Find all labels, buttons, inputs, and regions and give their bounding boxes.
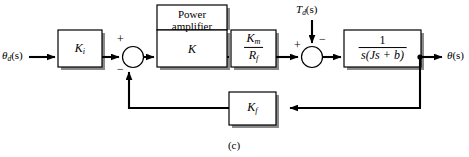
plant-numerator: 1 (358, 34, 407, 47)
input-argument: (s) (11, 49, 23, 61)
feedback-gain-subscript: f (255, 106, 257, 115)
controller-gain-subscript: i (83, 47, 85, 56)
plant-denominator: s(Js + b) (358, 47, 407, 62)
feedback-gain-symbol: K (247, 100, 255, 114)
diagram-vector-layer (0, 0, 469, 157)
output-signal-label: θ(s) (447, 50, 464, 61)
motor-constant-label: Km Rf (244, 32, 264, 64)
plant-fraction: 1 s(Js + b) (358, 34, 407, 62)
power-amplifier-caption: Power amplifier (172, 8, 212, 33)
feedback-label: Kf (247, 101, 257, 115)
power-amplifier-caption-line1: Power (172, 8, 212, 20)
plant-label: 1 s(Js + b) (358, 34, 407, 62)
sum2-plus-sign: + (294, 39, 301, 51)
figure-caption: (c) (228, 140, 240, 151)
signal-takeoff-node (417, 54, 422, 59)
output-argument: (s) (452, 49, 464, 61)
block-diagram-figure: θd(s) Ki + − Power amplifier K Km Rf Td(… (0, 0, 469, 157)
summing-junction-2 (302, 47, 323, 68)
controller-gain-symbol: K (75, 41, 83, 55)
motor-constant-fraction: Km Rf (244, 32, 264, 64)
motor-constant-denominator: Rf (244, 47, 264, 64)
power-amplifier-label: K (188, 43, 196, 55)
power-amplifier-caption-line2: amplifier (172, 20, 212, 32)
sum1-plus-sign: + (117, 33, 124, 45)
sum2-minus-sign: − (319, 33, 326, 45)
sum1-minus-sign: − (117, 63, 124, 75)
disturbance-argument: (s) (306, 3, 318, 15)
summing-junction-1 (123, 47, 144, 68)
input-signal-label: θd(s) (2, 50, 23, 63)
disturbance-signal-label: Td(s) (296, 4, 317, 17)
motor-constant-numerator: Km (244, 32, 264, 47)
controller-label: Ki (75, 42, 85, 56)
